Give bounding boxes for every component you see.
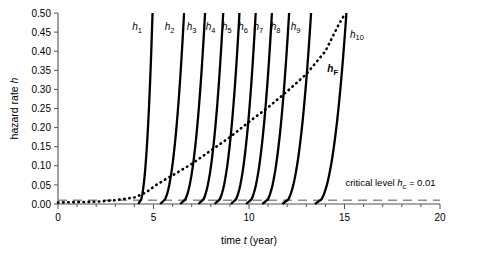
hazard-curve-h6 — [231, 13, 256, 204]
y-tick-label: 0.15 — [32, 141, 52, 152]
y-tick-label: 0.30 — [32, 84, 52, 95]
curve-label-h3: h3 — [187, 21, 197, 35]
envelope-curve-hF — [58, 13, 345, 202]
x-tick-label: 0 — [55, 212, 61, 223]
y-tick-label: 0.45 — [32, 27, 52, 38]
hazard-curve-h10 — [315, 13, 347, 204]
x-tick-label: 10 — [243, 212, 255, 223]
x-tick-label: 20 — [434, 212, 446, 223]
curve-label-h8: h8 — [271, 21, 281, 35]
y-tick-group: 0.000.050.100.150.200.250.300.350.400.45… — [32, 8, 58, 210]
y-tick-label: 0.35 — [32, 65, 52, 76]
curve-label-h9: h9 — [291, 21, 301, 35]
x-tick-label: 5 — [151, 212, 157, 223]
chart-svg: 0.000.050.100.150.200.250.300.350.400.45… — [0, 0, 477, 256]
y-axis-title: hazard rate h — [8, 77, 20, 139]
hazard-curve-h2 — [160, 13, 184, 204]
curve-label-h1: h1 — [132, 21, 142, 35]
x-axis-title: time t (year) — [221, 234, 277, 246]
x-tick-label: 15 — [339, 212, 351, 223]
hazard-rate-chart: 0.000.050.100.150.200.250.300.350.400.45… — [0, 0, 477, 256]
y-tick-label: 0.40 — [32, 46, 52, 57]
y-tick-label: 0.10 — [32, 160, 52, 171]
hazard-curve-h5 — [215, 13, 240, 204]
curve-label-h2: h2 — [165, 21, 175, 35]
curve-label-h5: h5 — [222, 21, 232, 35]
hazard-curves-group — [138, 13, 346, 204]
hazard-curve-h4 — [198, 13, 223, 204]
envelope-curve-group — [58, 13, 345, 202]
hazard-curve-h3 — [180, 13, 205, 204]
critical-level-annotation: critical level hc = 0.01 — [345, 177, 435, 191]
curve-label-hF: hF — [327, 63, 338, 77]
x-tick-group: 05101520 — [55, 204, 446, 223]
y-tick-label: 0.05 — [32, 180, 52, 191]
hazard-curve-h1 — [138, 13, 152, 204]
y-tick-label: 0.20 — [32, 122, 52, 133]
curve-label-h4: h4 — [206, 21, 216, 35]
y-tick-label: 0.00 — [32, 199, 52, 210]
curve-labels-group: h1h2h3h4h5h6h7h8h9h10 — [132, 21, 364, 42]
curve-label-h6: h6 — [238, 21, 248, 35]
y-tick-label: 0.25 — [32, 103, 52, 114]
curve-label-h10: h10 — [350, 29, 364, 43]
y-tick-label: 0.50 — [32, 8, 52, 19]
